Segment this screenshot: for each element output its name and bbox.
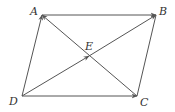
vector-eb bbox=[89, 15, 156, 56]
label-a: A bbox=[30, 6, 38, 17]
label-d: D bbox=[9, 96, 18, 107]
label-c: C bbox=[140, 97, 148, 108]
vector-de bbox=[22, 56, 89, 96]
segment-bc bbox=[137, 15, 156, 96]
label-b: B bbox=[159, 6, 167, 17]
parallelogram-diagram: A B C D E bbox=[0, 0, 175, 112]
diagram-canvas bbox=[0, 0, 175, 112]
vector-da bbox=[22, 15, 42, 96]
vector-ca bbox=[42, 15, 137, 96]
label-e: E bbox=[85, 41, 93, 52]
